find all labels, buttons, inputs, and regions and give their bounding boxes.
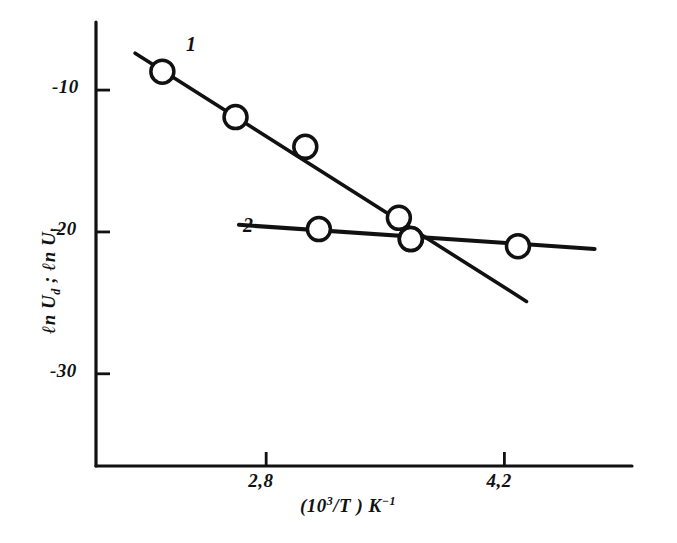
axis-lines — [96, 22, 632, 466]
y-axis-tick-label-minus10: -10 — [52, 76, 79, 98]
y-axis-title-part-1: ℓn U — [38, 295, 59, 334]
curve-label-1: 1 — [186, 33, 197, 56]
y-axis-title-subscript-d: d — [49, 288, 63, 295]
plot-canvas — [0, 0, 677, 543]
curve-label-2: 2 — [243, 214, 254, 237]
y-axis-title-part-2: ; ℓn U — [38, 232, 59, 288]
x-axis-title: (103/T ) K−1 — [300, 494, 396, 517]
x-axis-title-exponent-2: −1 — [382, 494, 396, 508]
x-axis-tick-label-2-8: 2,8 — [248, 470, 273, 492]
curve-1-group — [135, 53, 526, 301]
y-axis-title: ℓn Ud ; ℓn Ui — [38, 186, 64, 376]
x-axis-tick-label-4-2: 4,2 — [486, 470, 511, 492]
curve-2-marker — [506, 235, 529, 258]
curve-1-marker — [151, 60, 174, 83]
y-axis-title-subscript-i: i — [49, 228, 63, 232]
curve-2-group — [239, 218, 595, 258]
x-axis-title-middle: /T ) K — [333, 495, 381, 516]
curve-2-marker — [399, 228, 422, 251]
x-axis-title-prefix: (10 — [300, 495, 327, 516]
x-axis-ticks — [266, 452, 504, 466]
y-axis-ticks — [96, 90, 110, 374]
curve-1-marker — [224, 106, 247, 129]
curve-1-marker — [294, 135, 317, 158]
curve-1-fit-line — [135, 53, 526, 301]
curve-1-marker — [387, 206, 410, 229]
arrhenius-plot-figure: -10 -20 -30 2,8 4,2 (103/T ) K−1 ℓn Ud ;… — [0, 0, 677, 543]
curve-2-marker — [307, 218, 330, 241]
